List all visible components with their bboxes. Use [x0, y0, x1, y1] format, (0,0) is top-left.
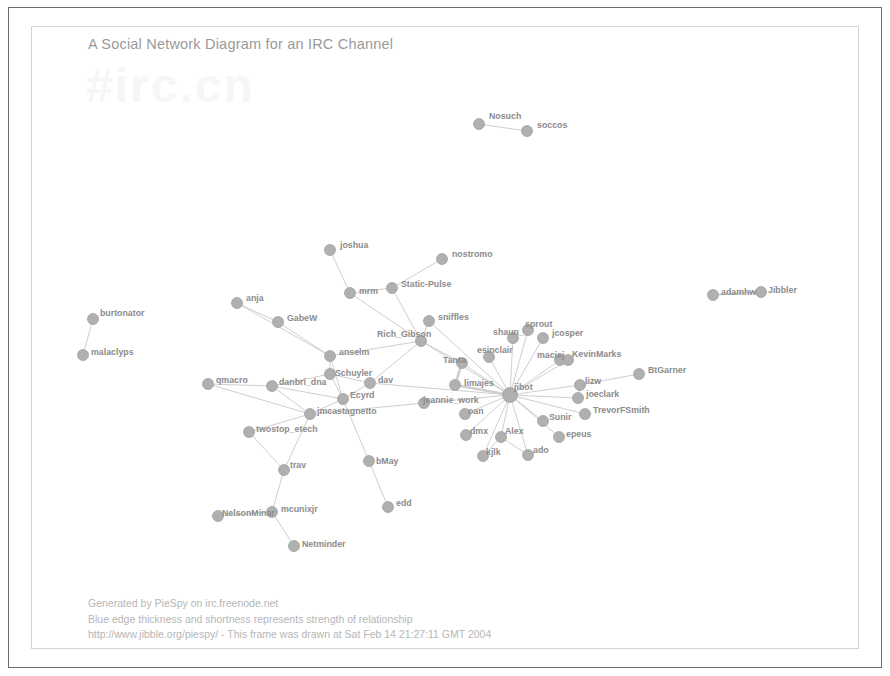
- node-label: jibot: [514, 383, 533, 392]
- graph-node[interactable]: [78, 350, 89, 361]
- node-label: twostop_etech: [256, 425, 318, 434]
- graph-edge: [249, 432, 284, 470]
- graph-edge: [237, 303, 278, 322]
- graph-node[interactable]: [289, 541, 300, 552]
- node-label: nostromo: [452, 250, 493, 259]
- footer-line-legend: Blue edge thickness and shortness repres…: [88, 612, 491, 628]
- graph-edge: [369, 461, 388, 507]
- node-label: sniffles: [438, 313, 469, 322]
- node-label: TrevorFSmith: [593, 406, 650, 415]
- node-label: Netminder: [302, 540, 346, 549]
- node-label: qmacro: [216, 376, 248, 385]
- graph-node[interactable]: [424, 316, 435, 327]
- node-label: mcunixjr: [281, 505, 318, 514]
- graph-node[interactable]: [573, 393, 584, 404]
- node-label: esinclair: [477, 346, 513, 355]
- node-label: trav: [290, 461, 306, 470]
- node-label: Nosuch: [489, 112, 521, 121]
- graph-node[interactable]: [575, 380, 586, 391]
- node-label: epeus: [566, 430, 591, 439]
- node-label: ado: [533, 446, 549, 455]
- node-label: shaun_: [493, 328, 524, 337]
- graph-node[interactable]: [325, 351, 336, 362]
- graph-node[interactable]: [383, 502, 394, 513]
- diagram-page: #irc.cn NosuchsoccosjoshuanostromomrmSta…: [0, 0, 890, 676]
- node-label: limajes: [464, 379, 494, 388]
- graph-node[interactable]: [437, 254, 448, 265]
- node-label: sprout: [525, 320, 552, 329]
- graph-edge: [278, 322, 330, 356]
- graph-node[interactable]: [538, 333, 549, 344]
- graph-edge: [208, 384, 310, 414]
- node-label: Rich_Gibson: [377, 330, 431, 339]
- graph-node[interactable]: [708, 290, 719, 301]
- graph-node[interactable]: [279, 465, 290, 476]
- node-label: adamhw: [721, 288, 756, 297]
- node-label: bMay: [376, 457, 399, 466]
- graph-edge: [479, 124, 527, 131]
- graph-node[interactable]: [267, 381, 278, 392]
- graph-node[interactable]: [538, 416, 549, 427]
- node-label: anja: [246, 294, 264, 303]
- graph-node[interactable]: [580, 409, 591, 420]
- graph-node[interactable]: [305, 409, 316, 420]
- node-label: Ecyrd: [350, 391, 374, 400]
- graph-edge: [330, 250, 350, 293]
- node-label: jmcastagnetto: [317, 407, 377, 416]
- footer-line-url: http://www.jibble.org/piespy/ - This fra…: [88, 627, 491, 643]
- graph-node[interactable]: [554, 432, 565, 443]
- graph-node[interactable]: [523, 450, 534, 461]
- graph-node[interactable]: [338, 394, 349, 405]
- graph-node[interactable]: [474, 119, 485, 130]
- node-label: Jibbler: [768, 286, 797, 295]
- node-label: edd: [396, 499, 412, 508]
- node-label: KevinMarks: [572, 350, 621, 359]
- node-label: jeannie_work: [423, 396, 479, 405]
- graph-node[interactable]: [756, 287, 767, 298]
- graph-edge: [272, 386, 310, 414]
- footer-line-generator: Generated by PieSpy on irc.freenode.net: [88, 596, 491, 612]
- graph-node[interactable]: [232, 298, 243, 309]
- node-label: Static-Pulse: [401, 280, 451, 289]
- node-label: jcosper: [552, 329, 583, 338]
- graph-edge: [237, 303, 330, 356]
- node-label: kjlk: [486, 448, 501, 457]
- node-label: BtGarner: [648, 366, 686, 375]
- node-label: mrm: [359, 287, 378, 296]
- node-label: joeclark: [586, 390, 619, 399]
- node-label: soccos: [537, 121, 567, 130]
- node-label: Sunir: [549, 413, 571, 422]
- node-label: danbri_dna: [279, 378, 326, 387]
- diagram-footer: Generated by PieSpy on irc.freenode.net …: [88, 596, 491, 643]
- graph-node[interactable]: [244, 427, 255, 438]
- graph-node[interactable]: [522, 126, 533, 137]
- node-label: malaclyps: [91, 348, 134, 357]
- node-label: anselm: [339, 348, 369, 357]
- graph-node[interactable]: [88, 314, 99, 325]
- node-label: NelsonMinar: [222, 509, 275, 518]
- node-label: maciej: [537, 351, 564, 360]
- graph-node[interactable]: [203, 379, 214, 390]
- graph-node[interactable]: [450, 380, 461, 391]
- node-label: joshua: [340, 241, 368, 250]
- graph-node[interactable]: [345, 288, 356, 299]
- graph-node[interactable]: [634, 369, 645, 380]
- node-label: Tanta: [443, 356, 466, 365]
- graph-node[interactable]: [387, 283, 398, 294]
- node-label: oan: [468, 407, 484, 416]
- graph-node[interactable]: [273, 317, 284, 328]
- node-label: GabeW: [287, 314, 317, 323]
- graph-node[interactable]: [325, 245, 336, 256]
- network-graph: [0, 0, 890, 676]
- node-label: lizw: [585, 377, 601, 386]
- node-label: burtonator: [100, 309, 144, 318]
- graph-node[interactable]: [364, 456, 375, 467]
- graph-node[interactable]: [365, 378, 376, 389]
- graph-edge: [272, 512, 294, 546]
- page-title: A Social Network Diagram for an IRC Chan…: [88, 36, 393, 52]
- node-label: dmx: [470, 427, 488, 436]
- diagram-canvas: #irc.cn NosuchsoccosjoshuanostromomrmSta…: [0, 0, 890, 676]
- node-label: dav: [378, 376, 393, 385]
- graph-edge: [272, 386, 343, 399]
- node-label: Alex: [505, 427, 524, 436]
